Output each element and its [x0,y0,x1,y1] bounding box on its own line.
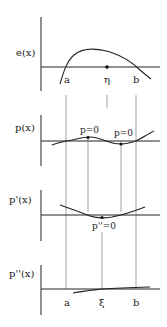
panel-e-label-eta: η [104,74,110,85]
panel-p-prime-min-dot [100,216,103,219]
panel-p-double-prime-label-xi: ξ [99,297,105,308]
panel-p-double-prime-curve [73,287,150,293]
panel-e-eta-dot [105,65,109,69]
panel-p-min-dot [119,142,122,145]
panel-p: p(x) p=0 p=0 [15,115,160,166]
panel-p-prime: p'(x) p''=0 [9,190,160,241]
guide-lines [66,95,136,289]
panel-p-prime-curve [60,205,145,218]
error-function-derivatives-diagram: e(x) a η b p(x) p=0 p=0 p'(x) p''=0 p''(… [0,0,167,327]
panel-p-max-dot [86,136,89,139]
panel-p-double-prime-label-a: a [64,297,70,308]
panel-p-double-prime: p''(x) a ξ b [9,265,160,315]
panel-p-double-prime-label-b: b [133,297,139,308]
panel-p-annotation-2: p=0 [114,128,133,138]
panel-p-double-prime-label: p''(x) [9,268,34,279]
panel-p-curve [52,131,154,145]
panel-e-label: e(x) [16,47,35,58]
panel-e-label-a: a [64,74,70,85]
panel-e-label-b: b [133,74,139,85]
panel-p-prime-annotation: p''=0 [92,221,116,231]
panel-p-annotation-1: p=0 [80,125,99,135]
panel-p-label: p(x) [15,122,35,133]
panel-p-prime-label: p'(x) [9,194,32,205]
panel-e: e(x) a η b [16,17,160,91]
